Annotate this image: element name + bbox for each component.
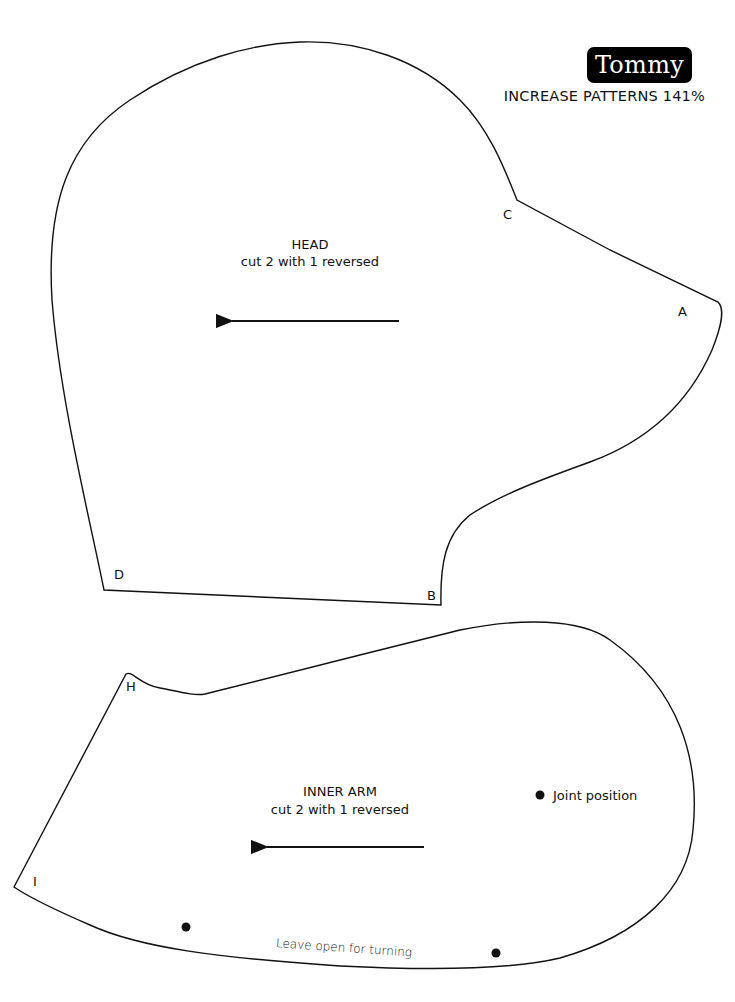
point-label-d: D	[114, 567, 124, 582]
inner-arm-cut-instruction: cut 2 with 1 reversed	[230, 802, 450, 818]
head-cut-instruction: cut 2 with 1 reversed	[200, 254, 420, 270]
joint-position-dot	[536, 791, 545, 800]
opening-start-dot	[182, 923, 191, 932]
point-label-a: A	[678, 304, 687, 319]
point-label-h: H	[126, 679, 136, 694]
point-label-i: I	[33, 874, 37, 889]
head-piece-title: HEAD	[200, 237, 420, 253]
joint-position-label: Joint position	[553, 788, 637, 804]
point-label-b: B	[427, 588, 436, 603]
pattern-sheet: Tommy INCREASE PATTERNS 141% HEAD cut 2 …	[0, 0, 735, 1002]
pattern-title-badge: Tommy	[587, 47, 692, 83]
pattern-outlines	[0, 0, 735, 1002]
point-label-c: C	[503, 207, 512, 222]
head-piece-outline	[51, 42, 722, 605]
inner-arm-piece-title: INNER ARM	[230, 784, 450, 800]
scale-instruction: INCREASE PATTERNS 141%	[470, 88, 705, 104]
opening-end-dot	[492, 949, 501, 958]
